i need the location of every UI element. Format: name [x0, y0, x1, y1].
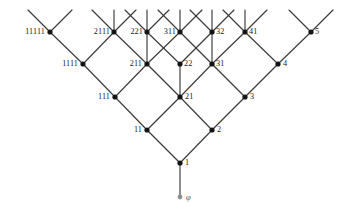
lattice-node-11[interactable] [144, 127, 149, 132]
node-label-211: 211 [130, 60, 142, 68]
lattice-node-21[interactable] [177, 94, 182, 99]
lattice-node-111[interactable] [112, 94, 117, 99]
lattice-edge [180, 97, 212, 130]
lattice-edge [115, 97, 147, 130]
lattice-edge [115, 64, 147, 97]
node-label-32: 32 [216, 28, 224, 36]
node-label-311: 311 [164, 28, 176, 36]
lattice-node-211[interactable] [144, 61, 149, 66]
stub-group [28, 10, 333, 32]
lattice-edge [83, 32, 114, 64]
lattice-node-1111[interactable] [80, 61, 85, 66]
lattice-node-32[interactable] [209, 29, 214, 34]
lattice-node-31[interactable] [209, 61, 214, 66]
lattice-edge [212, 64, 245, 97]
lattice-node-phi[interactable] [178, 195, 183, 200]
lattice-node-2[interactable] [209, 127, 214, 132]
lattice-edge [147, 64, 180, 97]
node-label-111: 111 [98, 93, 110, 101]
lattice-node-5[interactable] [308, 29, 313, 34]
node-label-221: 221 [130, 28, 143, 36]
edge-group [50, 32, 311, 197]
node-label-41: 41 [249, 28, 257, 36]
node-label-31: 31 [216, 60, 224, 68]
lattice-node-3[interactable] [242, 94, 247, 99]
lattice-edge [147, 130, 180, 163]
node-label-5: 5 [315, 28, 319, 36]
lattice-node-4[interactable] [275, 61, 280, 66]
node-label-phi: φ [186, 193, 191, 202]
lattice-edge-stub [223, 10, 245, 32]
node-label-3: 3 [250, 93, 254, 101]
lattice-edge-stub [289, 10, 311, 32]
node-label-21: 21 [185, 93, 193, 101]
lattice-node-221[interactable] [144, 29, 149, 34]
lattice-node-2111[interactable] [111, 29, 116, 34]
node-label-11111: 11111 [25, 28, 45, 36]
node-label-2: 2 [217, 126, 221, 134]
young-lattice-figure: 1111121112213113241511112112231411121311… [0, 0, 343, 216]
lattice-edge [147, 97, 180, 130]
lattice-node-22[interactable] [177, 61, 182, 66]
lattice-node-311[interactable] [177, 29, 182, 34]
node-label-11: 11 [134, 126, 142, 134]
node-label-4: 4 [283, 60, 287, 68]
node-label-22: 22 [184, 60, 192, 68]
lattice-edge-stub [190, 10, 212, 32]
lattice-edge-stub [180, 10, 202, 32]
lattice-edge-stub [50, 10, 72, 32]
lattice-node-11111[interactable] [47, 29, 52, 34]
lattice-node-1[interactable] [177, 160, 182, 165]
node-label-1: 1 [185, 159, 189, 167]
lattice-edge [245, 32, 278, 64]
node-label-2111: 2111 [94, 28, 110, 36]
lattice-node-41[interactable] [242, 29, 247, 34]
node-label-1111: 1111 [62, 60, 78, 68]
